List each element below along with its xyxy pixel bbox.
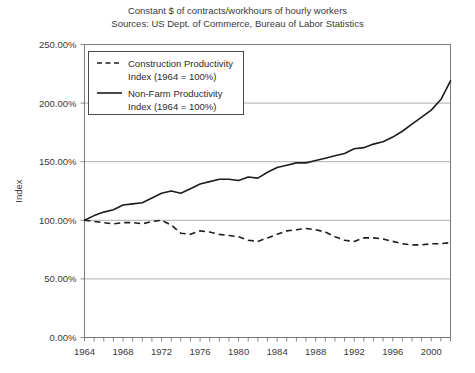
x-tick-label: 1968 bbox=[112, 346, 133, 357]
legend-label-nonfarm-line1: Non-Farm Productivity bbox=[128, 88, 223, 99]
y-tick-label: 250.00% bbox=[39, 39, 77, 50]
chart-subtitle: Sources: US Dept. of Commerce, Bureau of… bbox=[111, 18, 364, 29]
y-tick-label: 0.00% bbox=[50, 332, 77, 343]
y-tick-label: 50.00% bbox=[44, 273, 77, 284]
x-tick-label: 1992 bbox=[344, 346, 365, 357]
x-tick-label: 2000 bbox=[421, 346, 442, 357]
legend-label-construction-line2: Index (1964 = 100%) bbox=[128, 71, 216, 82]
chart-legend: Construction Productivity Index (1964 = … bbox=[89, 52, 244, 115]
x-tick-label: 1964 bbox=[74, 346, 95, 357]
x-tick-label: 1988 bbox=[305, 346, 326, 357]
chart-title: Constant $ of contracts/workhours of hou… bbox=[128, 5, 347, 16]
productivity-index-chart: Constant $ of contracts/workhours of hou… bbox=[0, 0, 475, 373]
legend-label-nonfarm-line2: Index (1964 = 100%) bbox=[128, 101, 216, 112]
y-tick-label: 200.00% bbox=[39, 98, 77, 109]
y-tick-label: 100.00% bbox=[39, 215, 77, 226]
x-tick-label: 1980 bbox=[228, 346, 249, 357]
x-tick-label: 1972 bbox=[151, 346, 172, 357]
y-axis-label: Index bbox=[13, 179, 24, 202]
x-tick-label: 1976 bbox=[190, 346, 211, 357]
x-tick-label: 1996 bbox=[382, 346, 403, 357]
x-tick-label: 1984 bbox=[267, 346, 288, 357]
y-tick-label: 150.00% bbox=[39, 156, 77, 167]
legend-label-construction-line1: Construction Productivity bbox=[128, 58, 233, 69]
